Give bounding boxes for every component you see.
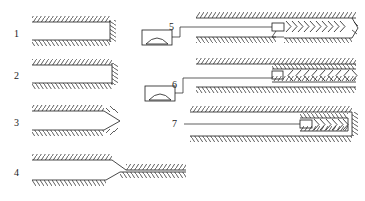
figure-label-4: 4 [14,168,19,178]
item-6-drawing [196,58,357,93]
figure-label-3: 3 [14,118,19,128]
item-7-drawing [184,106,358,142]
figure-drawing-canvas [0,0,365,201]
figure-label-2: 2 [14,71,19,81]
leader-line-5 [172,27,272,37]
arch-symbol-6-drawing [145,86,175,101]
item-3-drawing [32,105,120,136]
item-5-drawing [196,12,358,43]
figure-label-6: 6 [172,80,177,90]
arch-symbol-5-drawing [142,30,172,45]
figure-label-7: 7 [172,119,177,129]
item-2-drawing [32,59,118,89]
item-4-drawing [32,154,186,186]
figure-label-5: 5 [169,22,174,32]
technical-figure: 1 2 3 4 5 6 7 [0,0,365,201]
figure-label-1: 1 [14,29,19,39]
item-1-drawing [32,16,116,46]
